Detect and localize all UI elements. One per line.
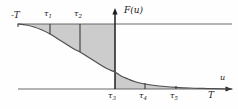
tau-1-subscript: 1 (48, 13, 52, 19)
label-tau-3: τ3 (108, 92, 116, 101)
tau-3-subscript: 3 (112, 95, 116, 101)
tau-4-subscript: 4 (143, 95, 147, 101)
label-tau-5: τ5 (170, 92, 178, 101)
figure-canvas (0, 0, 238, 109)
label-left-endpoint: -T (11, 11, 20, 20)
label-tau-4: τ4 (139, 92, 147, 101)
tau-2-subscript: 2 (78, 13, 82, 19)
label-y-axis: F(u) (124, 6, 143, 15)
label-tau-2: τ2 (74, 10, 82, 19)
label-x-axis: u (220, 74, 225, 82)
tau-5-subscript: 5 (174, 95, 178, 101)
y-axis-arrowhead (112, 8, 117, 15)
figure-container: -T τ1 τ2 F(u) τ3 τ4 τ5 T u (0, 0, 238, 109)
label-tau-1: τ1 (44, 10, 52, 19)
label-right-endpoint: T (208, 91, 214, 100)
